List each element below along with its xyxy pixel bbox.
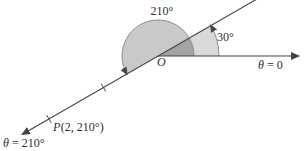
label-point-p-symbol: P: [52, 120, 61, 134]
tick-r2: [47, 115, 52, 123]
label-theta-210: θ= 210°: [3, 136, 45, 150]
label-30-degrees: 30°: [217, 30, 234, 44]
terminal-line-210: [22, 0, 257, 135]
polar-angle-diagram: 210° 30° O θ= 0 P(2, 210°) θ= 210°: [0, 0, 305, 151]
label-origin: O: [157, 55, 166, 69]
label-theta-0-symbol: θ: [258, 58, 264, 72]
label-theta-210-value: = 210°: [12, 136, 45, 150]
label-theta-210-symbol: θ: [3, 136, 9, 150]
label-point-p: P(2, 210°): [52, 120, 104, 134]
diagram-canvas: 210° 30° O θ= 0 P(2, 210°) θ= 210°: [0, 0, 305, 151]
tick-r1: [101, 84, 106, 92]
label-theta-0: θ= 0: [258, 58, 283, 72]
label-theta-0-value: = 0: [267, 58, 283, 72]
label-210-degrees: 210°: [151, 4, 174, 18]
label-point-p-coords: (2, 210°): [61, 120, 104, 134]
